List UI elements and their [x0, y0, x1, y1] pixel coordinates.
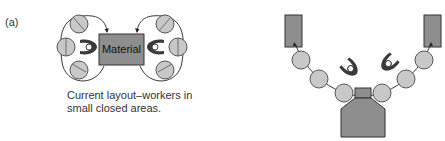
current-layout: Material: [57, 15, 187, 81]
station-circle: [373, 84, 391, 102]
station-circle: [57, 38, 75, 56]
caption-line-2: small closed areas.: [67, 102, 217, 115]
caption-line-1: Current layout–workers in: [67, 89, 217, 102]
layout-diagram: Material: [0, 0, 445, 141]
station-circle: [335, 84, 353, 102]
station-circle: [70, 61, 88, 79]
material-bin-right: [424, 15, 441, 47]
station-circle: [156, 61, 174, 79]
worker-icon: [339, 57, 362, 80]
station-circle: [70, 15, 88, 33]
caption: Current layout–workers in small closed a…: [67, 89, 217, 115]
station-circle: [169, 38, 187, 56]
station-circle: [415, 51, 433, 69]
station-circle: [292, 51, 310, 69]
material-label: Material: [102, 43, 141, 55]
material-bin-left: [285, 15, 302, 47]
station-circle: [156, 15, 174, 33]
worker-icon: [147, 40, 164, 55]
worker-icon: [80, 40, 97, 55]
worker-icon: [377, 52, 400, 75]
station-circle: [397, 70, 415, 88]
proposed-layout: [285, 15, 441, 137]
station-circle: [310, 70, 328, 88]
